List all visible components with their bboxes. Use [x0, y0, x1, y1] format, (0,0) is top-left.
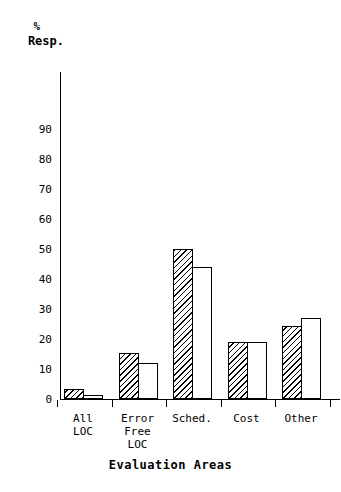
bar-chart: % Resp. 0102030405060708090 AllLOCErrorF… [0, 0, 341, 492]
x-tick-mark [57, 400, 58, 407]
y-axis-label-text: Resp. [0, 34, 72, 48]
bar-open [83, 395, 103, 400]
y-tick-label: 80 [4, 154, 52, 165]
bar-open [192, 267, 212, 399]
y-tick-label: 60 [4, 214, 52, 225]
x-category-label-line: Other [258, 412, 341, 425]
x-axis-line [60, 399, 340, 400]
x-category-label: Other [258, 412, 341, 425]
y-tick-label: 50 [4, 244, 52, 255]
y-tick-label: 20 [4, 334, 52, 345]
bar-group [173, 71, 227, 399]
bar-hatched [119, 353, 139, 400]
y-tick-label: 90 [4, 124, 52, 135]
bar-group [228, 71, 282, 399]
bar-hatched [64, 389, 84, 400]
bar-hatched [282, 326, 302, 400]
bar-group [282, 71, 336, 399]
x-tick-mark [166, 400, 167, 407]
y-tick-label: 10 [4, 364, 52, 375]
y-axis-line [60, 72, 61, 400]
bar-open [138, 363, 158, 399]
bar-open [301, 318, 321, 399]
y-tick-label: 30 [4, 304, 52, 315]
bar-hatched [228, 342, 248, 399]
x-category-label-line: LOC [95, 438, 181, 451]
y-axis-percent-symbol: % [0, 20, 72, 34]
bar-open [247, 342, 267, 399]
y-tick-label: 70 [4, 184, 52, 195]
y-tick-label: 0 [4, 394, 52, 405]
x-axis-title: Evaluation Areas [0, 458, 341, 472]
y-tick-label: 40 [4, 274, 52, 285]
x-tick-mark [275, 400, 276, 407]
x-tick-mark [221, 400, 222, 407]
bar-group [64, 71, 118, 399]
bar-hatched [173, 249, 193, 399]
x-tick-mark [330, 400, 331, 407]
plot-area: 0102030405060708090 AllLOCErrorFreeLOCSc… [60, 72, 340, 400]
x-tick-mark [112, 400, 113, 407]
bar-group [119, 71, 173, 399]
x-category-label-line: Free [95, 425, 181, 438]
y-axis-title: % Resp. [0, 20, 72, 48]
